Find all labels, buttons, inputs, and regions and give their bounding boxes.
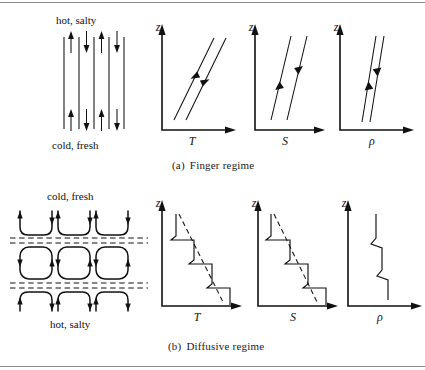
finger-schematic	[58, 31, 136, 135]
diffusive-top-half-cells	[20, 211, 128, 235]
chart-diffusive-rho: ρ z	[338, 200, 422, 322]
x-axis-label-S: S	[282, 134, 288, 148]
caption-index-a: (a)	[172, 159, 185, 171]
finger-arrow-down-1	[84, 31, 90, 131]
diffusive-interface-2	[10, 283, 148, 288]
diffusive-top-arrows	[17, 211, 130, 225]
finger-bottom-label: cold, fresh	[52, 139, 98, 151]
x-axis-label-T: T	[194, 310, 202, 324]
x-axis-label-rho: ρ	[368, 134, 375, 148]
y-axis-label-z: z	[251, 196, 257, 210]
chart-diffusive-S: S z	[248, 200, 338, 322]
finger-top-label: hot, salty	[56, 14, 96, 26]
chart-finger-rho: ρ z	[330, 24, 414, 146]
caption-finger: (a)Finger regime	[172, 159, 254, 171]
caption-text-b: Diffusive regime	[186, 340, 264, 352]
y-axis-label-z: z	[155, 20, 161, 34]
chart-finger-S: S z	[245, 24, 325, 146]
finger-rho-profiles	[362, 36, 384, 122]
finger-arrow-up-1	[68, 31, 74, 131]
x-axis-label-rho: ρ	[376, 310, 383, 324]
diffusive-rho-staircase	[371, 214, 388, 300]
diffusive-cell-arrows	[17, 259, 130, 267]
axes	[344, 200, 422, 310]
bottom-rule	[0, 366, 425, 367]
diffusive-bottom-arrows	[17, 297, 130, 311]
chart-finger-T: T z	[152, 24, 236, 146]
diffusive-top-label: cold, fresh	[47, 190, 93, 202]
diffusive-interface-1	[10, 238, 148, 243]
finger-S-profiles	[271, 36, 307, 120]
diffusive-cells-row	[20, 247, 128, 279]
y-axis-label-z: z	[341, 196, 347, 210]
y-axis-label-z: z	[155, 196, 161, 210]
y-axis-label-z: z	[248, 20, 254, 34]
diffusive-schematic	[8, 205, 150, 317]
figure-root: hot, salty cold, fresh	[0, 0, 425, 370]
caption-text-a: Finger regime	[190, 159, 255, 171]
diffusive-S-mean-gradient	[274, 214, 318, 304]
caption-diffusive: (b)Diffusive regime	[168, 340, 264, 352]
diffusive-T-staircase	[171, 214, 230, 305]
finger-arrow-down-2	[114, 31, 120, 131]
y-axis-label-z: z	[333, 20, 339, 34]
diffusive-bottom-label: hot, salty	[50, 318, 90, 330]
diffusive-T-mean-gradient	[179, 214, 224, 304]
x-axis-label-T: T	[189, 134, 197, 148]
x-axis-label-S: S	[290, 310, 296, 324]
finger-T-profiles	[174, 38, 226, 120]
top-rule	[0, 2, 425, 3]
caption-index-b: (b)	[168, 340, 181, 352]
diffusive-bottom-half-cells	[20, 292, 128, 311]
chart-diffusive-T: T z	[152, 200, 242, 322]
finger-arrow-up-2	[99, 31, 105, 131]
